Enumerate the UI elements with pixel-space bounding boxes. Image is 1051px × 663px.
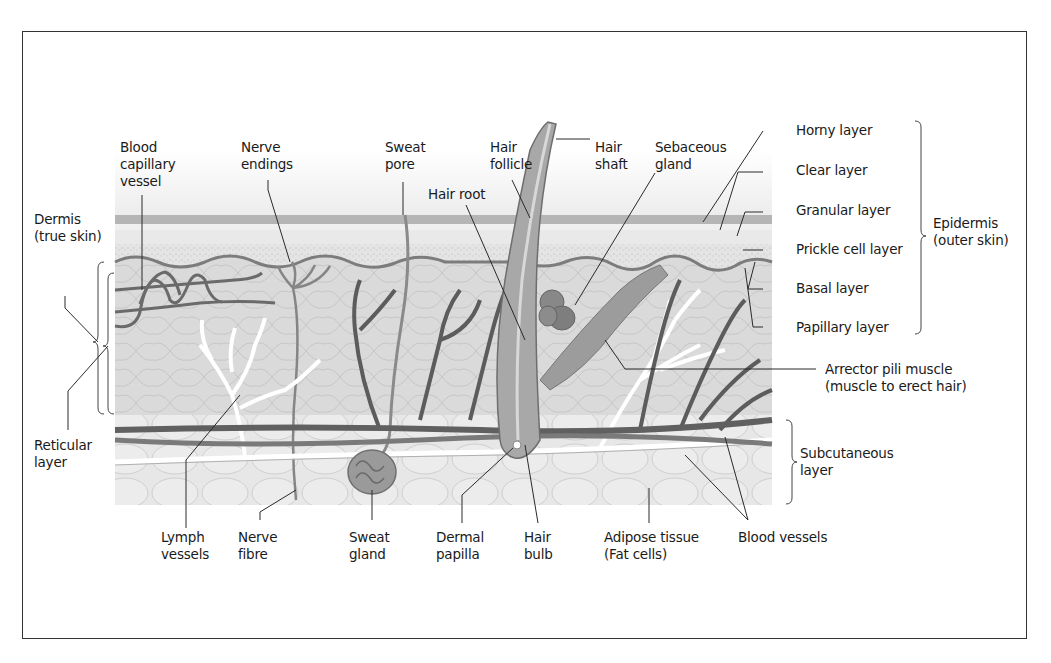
label-line: bulb — [524, 546, 553, 563]
label-line: Blood vessels — [738, 529, 827, 546]
label-adipose-tissue: Adipose tissue (Fat cells) — [604, 529, 699, 563]
label-line: Horny layer — [796, 122, 872, 139]
label-line: shaft — [595, 156, 628, 173]
label-line: gland — [349, 546, 389, 563]
label-line: (muscle to erect hair) — [825, 378, 967, 395]
label-nerve-fibre: Nerve fibre — [238, 529, 277, 563]
label-hair-root: Hair root — [428, 186, 485, 203]
skin-cross-section-illustration — [0, 0, 1051, 663]
label-nerve-endings: Nerve endings — [241, 139, 293, 173]
label-line: Reticular — [34, 437, 92, 454]
label-line: papilla — [436, 546, 484, 563]
label-line: Dermis — [34, 211, 102, 228]
label-line: Sebaceous — [655, 139, 727, 156]
label-epidermis: Epidermis (outer skin) — [933, 215, 1009, 249]
label-line: Prickle cell layer — [796, 241, 903, 258]
epidermis-bracket — [915, 121, 926, 334]
label-line: vessels — [161, 546, 209, 563]
reticular-bracket — [103, 273, 114, 414]
label-hair-shaft: Hair shaft — [595, 139, 628, 173]
label-line: Adipose tissue — [604, 529, 699, 546]
dermal-papilla-dot — [513, 441, 521, 449]
label-line: capillary — [120, 156, 176, 173]
dermis-region — [115, 255, 772, 415]
label-line: Nerve — [241, 139, 293, 156]
label-hair-bulb: Hair bulb — [524, 529, 553, 563]
label-line: follicle — [490, 156, 532, 173]
label-line: Clear layer — [796, 162, 867, 179]
label-line: Subcutaneous — [800, 445, 894, 462]
label-line: Granular layer — [796, 202, 890, 219]
label-line: Basal layer — [796, 280, 869, 297]
label-line: (true skin) — [34, 228, 102, 245]
label-lymph-vessels: Lymph vessels — [161, 529, 209, 563]
label-line: Hair — [595, 139, 628, 156]
label-arrector-pili-muscle: Arrector pili muscle (muscle to erect ha… — [825, 361, 967, 395]
label-line: layer — [34, 454, 92, 471]
label-line: (Fat cells) — [604, 546, 699, 563]
label-blood-vessels: Blood vessels — [738, 529, 827, 546]
label-line: Blood — [120, 139, 176, 156]
clear-layer-band — [115, 224, 772, 230]
label-sebaceous-gland: Sebaceous gland — [655, 139, 727, 173]
label-dermal-papilla: Dermal papilla — [436, 529, 484, 563]
label-sweat-pore: Sweat pore — [385, 139, 425, 173]
label-line: Dermal — [436, 529, 484, 546]
label-line: Lymph — [161, 529, 209, 546]
horny-layer-band — [115, 215, 772, 224]
label-papillary-layer: Papillary layer — [796, 319, 889, 336]
label-line: Sweat — [385, 139, 425, 156]
label-dermis: Dermis (true skin) — [34, 211, 102, 245]
label-blood-capillary-vessel: Blood capillary vessel — [120, 139, 176, 190]
label-hair-follicle: Hair follicle — [490, 139, 532, 173]
label-line: endings — [241, 156, 293, 173]
label-horny-layer: Horny layer — [796, 122, 872, 139]
sweat-gland-coil — [348, 450, 396, 494]
label-line: Hair root — [428, 186, 485, 203]
subcutaneous-bracket — [786, 420, 797, 504]
label-subcutaneous-layer: Subcutaneous layer — [800, 445, 894, 479]
label-line: gland — [655, 156, 727, 173]
label-line: Hair — [524, 529, 553, 546]
label-clear-layer: Clear layer — [796, 162, 867, 179]
label-basal-layer: Basal layer — [796, 280, 869, 297]
label-line: Epidermis — [933, 215, 1009, 232]
label-reticular-layer: Reticular layer — [34, 437, 92, 471]
label-line: pore — [385, 156, 425, 173]
label-line: Nerve — [238, 529, 277, 546]
label-line: Sweat — [349, 529, 389, 546]
label-line: Hair — [490, 139, 532, 156]
label-prickle-cell-layer: Prickle cell layer — [796, 241, 903, 258]
label-sweat-gland: Sweat gland — [349, 529, 389, 563]
label-line: layer — [800, 462, 894, 479]
label-line: fibre — [238, 546, 277, 563]
label-line: vessel — [120, 173, 176, 190]
granular-layer-band — [115, 230, 772, 244]
label-line: (outer skin) — [933, 232, 1009, 249]
label-line: Papillary layer — [796, 319, 889, 336]
label-granular-layer: Granular layer — [796, 202, 890, 219]
label-line: Arrector pili muscle — [825, 361, 967, 378]
